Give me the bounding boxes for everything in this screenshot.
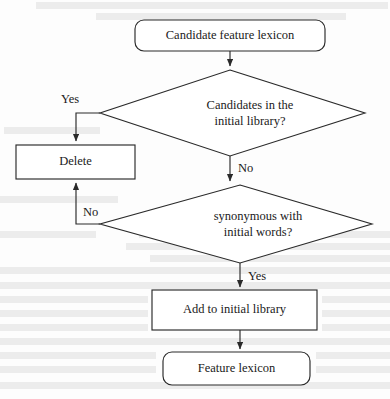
flowchart-figure: Candidate feature lexicon Candidates in … [0,0,390,399]
node-feature-lexicon-label: Feature lexicon [198,361,276,375]
node-candidate-feature-lexicon-label: Candidate feature lexicon [166,28,295,42]
edge-label-decision1-yes: Yes [61,92,79,106]
node-decision2-label-line1: synonymous with [214,209,303,223]
flowchart-canvas: Candidate feature lexicon Candidates in … [0,0,390,399]
node-delete-label: Delete [59,154,92,168]
node-decision1-label-line1: Candidates in the [207,98,294,112]
edge-decision1-yes-to-delete [76,113,100,141]
edge-label-decision2-no: No [83,205,98,219]
node-add-to-initial-library-label: Add to initial library [183,302,287,316]
edge-label-decision1-no: No [238,161,253,175]
node-decision2-label-line2: initial words? [224,225,293,239]
edge-label-decision2-yes: Yes [248,269,266,283]
node-decision1-label-line2: initial library? [214,114,286,128]
